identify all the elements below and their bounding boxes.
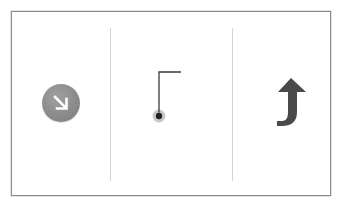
panel-curved-arrow (233, 12, 329, 194)
panel-arrow-circle (12, 12, 110, 194)
bleed-through-strip (10, 199, 330, 205)
connector-pin-icon (152, 65, 192, 135)
arrow-down-right-icon (50, 92, 72, 114)
curved-arrow-up-icon (274, 76, 308, 130)
panel-connector (111, 12, 232, 194)
arrow-down-right-circle-icon (42, 84, 80, 122)
